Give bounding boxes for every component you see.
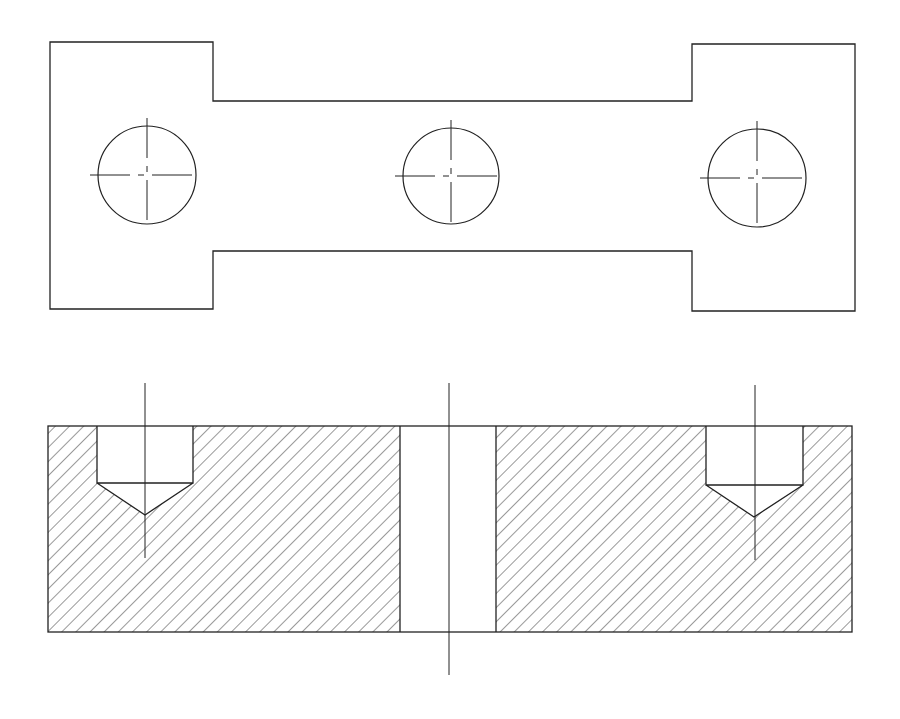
section-view xyxy=(48,383,852,675)
engineering-drawing xyxy=(0,0,900,719)
section-hatching xyxy=(48,426,852,632)
top-view xyxy=(50,42,855,311)
part-outline xyxy=(50,42,855,311)
